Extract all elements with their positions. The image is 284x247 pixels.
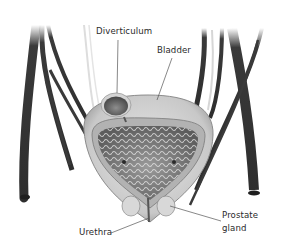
bladder (84, 95, 213, 222)
bladder-leader (157, 58, 172, 100)
label-bladder: Bladder (157, 45, 191, 56)
prostate-leader (170, 206, 221, 221)
label-urethra: Urethra (79, 227, 112, 238)
label-prostate-line1: Prostate (222, 210, 258, 221)
diverticulum-leader (117, 40, 118, 93)
left-vessels (20, 25, 100, 200)
urethra-leader (111, 218, 149, 233)
label-diverticulum: Diverticulum (96, 26, 152, 37)
label-prostate-line2: gland (222, 223, 247, 234)
